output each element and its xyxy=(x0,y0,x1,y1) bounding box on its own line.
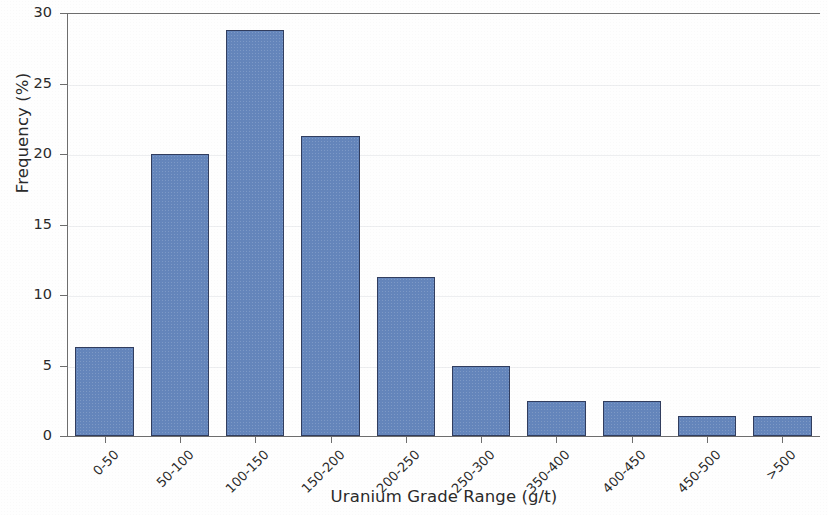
y-axis-tick-label: 25 xyxy=(12,75,52,91)
y-axis-tick xyxy=(60,13,67,14)
y-axis-tick xyxy=(60,366,67,367)
y-axis-tick-label: 15 xyxy=(12,216,52,232)
bar xyxy=(301,136,359,436)
y-axis-tick xyxy=(60,295,67,296)
y-axis-tick-label: 10 xyxy=(12,286,52,302)
x-axis-tick xyxy=(707,436,708,443)
y-axis-title: Frequency (%) xyxy=(13,33,39,233)
x-axis-tick xyxy=(481,436,482,443)
x-axis-tick xyxy=(180,436,181,443)
scan-artifact-line xyxy=(67,85,820,86)
bar xyxy=(226,30,284,436)
y-axis-tick-label: 30 xyxy=(12,4,52,20)
x-axis-tick xyxy=(105,436,106,443)
bar xyxy=(151,154,209,436)
x-axis-tick xyxy=(782,436,783,443)
x-axis-tick xyxy=(331,436,332,443)
plot-area: 051015202530 0-5050-100100-150150-200200… xyxy=(67,13,820,436)
y-axis-tick-label: 5 xyxy=(12,357,52,373)
bar xyxy=(75,347,133,436)
bar xyxy=(678,416,736,436)
y-axis-tick-label: 20 xyxy=(12,145,52,161)
plot-frame-top xyxy=(67,13,820,14)
bar xyxy=(452,366,510,437)
x-axis-tick xyxy=(556,436,557,443)
x-axis-tick xyxy=(255,436,256,443)
x-axis-tick xyxy=(632,436,633,443)
bar xyxy=(753,416,811,436)
y-axis-tick xyxy=(60,436,67,437)
x-axis-tick xyxy=(406,436,407,443)
bar-chart-figure: Frequency (%) Uranium Grade Range (g/t) … xyxy=(0,0,828,515)
bar xyxy=(377,277,435,436)
y-axis-tick-label: 0 xyxy=(12,427,52,443)
y-axis-tick xyxy=(60,154,67,155)
plot-frame-left xyxy=(67,13,68,436)
x-axis-title: Uranium Grade Range (g/t) xyxy=(0,487,828,506)
y-axis-tick xyxy=(60,225,67,226)
bar xyxy=(527,401,585,436)
y-axis-tick xyxy=(60,84,67,85)
bar xyxy=(603,401,661,436)
